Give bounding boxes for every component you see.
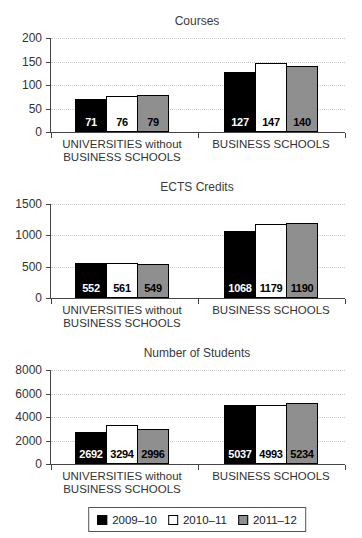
y-tick-label: 0 [4,291,42,305]
legend-item: 2010–11 [168,514,227,526]
y-tick-label: 0 [4,125,42,139]
legend-label: 2011–12 [253,514,297,526]
y-tick-mark [46,109,50,110]
y-tick-label: 2000 [4,434,42,448]
bar-value-label: 147 [255,116,287,128]
y-tick-label: 4000 [4,410,42,424]
chart-ects-credits: ECTS Credits 050010001500552106856111795… [0,174,362,340]
bar-value-label: 79 [137,116,169,128]
chart-number-of-students: Number of Students 020004000600080002692… [0,340,362,506]
y-tick-label: 200 [4,31,42,45]
category-label: UNIVERSITIES without BUSINESS SCHOOLS [37,138,207,164]
bar-value-label: 3294 [106,448,138,460]
bar-value-label: 5234 [286,448,318,460]
y-tick-mark [46,267,50,268]
gridline [51,394,345,395]
bar-value-label: 1190 [286,282,318,294]
bar-value-label: 2996 [137,448,169,460]
y-tick-mark [46,204,50,205]
bar-value-label: 1179 [255,282,287,294]
bar-value-label: 4993 [255,448,287,460]
gridline [51,38,345,39]
gridline [51,370,345,371]
category-label: BUSINESS SCHOOLS [186,138,356,151]
bar-value-label: 561 [106,282,138,294]
y-tick-mark [46,235,50,236]
category-label: UNIVERSITIES without BUSINESS SCHOOLS [37,470,207,496]
y-tick-mark [46,298,50,299]
bar-value-label: 140 [286,116,318,128]
legend-swatch [97,515,107,525]
chart-courses: Courses 050100150200711277614779140UNIVE… [0,8,362,174]
legend-label: 2009–10 [112,514,157,526]
y-tick-mark [46,370,50,371]
y-tick-mark [46,394,50,395]
plot-area: 0200040006000800026925037329449932996523… [50,370,345,465]
y-tick-label: 1000 [4,228,42,242]
legend-swatch [238,515,248,525]
legend-item: 2009–10 [97,514,157,526]
y-tick-label: 0 [4,457,42,471]
y-tick-label: 1500 [4,197,42,211]
y-tick-mark [46,441,50,442]
category-label: UNIVERSITIES without BUSINESS SCHOOLS [37,304,207,330]
bar-value-label: 552 [75,282,107,294]
plot-area: 050010001500552106856111795491190UNIVERS… [50,204,345,299]
y-tick-label: 500 [4,260,42,274]
bar-value-label: 549 [137,282,169,294]
bar-value-label: 2692 [75,448,107,460]
legend-swatch [168,515,178,525]
y-tick-label: 100 [4,78,42,92]
bar-value-label: 76 [106,116,138,128]
y-tick-mark [46,464,50,465]
y-tick-label: 50 [4,102,42,116]
legend-label: 2010–11 [183,514,227,526]
y-tick-mark [46,62,50,63]
y-tick-mark [46,85,50,86]
bar-value-label: 71 [75,116,107,128]
bar-value-label: 127 [224,116,256,128]
y-tick-label: 8000 [4,363,42,377]
legend-item: 2011–12 [238,514,297,526]
gridline [51,62,345,63]
category-label: BUSINESS SCHOOLS [186,304,356,317]
chart-title: Courses [50,14,344,28]
y-tick-mark [46,38,50,39]
bar-value-label: 1068 [224,282,256,294]
category-label: BUSINESS SCHOOLS [186,470,356,483]
y-tick-label: 150 [4,55,42,69]
chart-title: ECTS Credits [50,180,344,194]
legend: 2009–102010–112011–12 [88,507,306,532]
plot-area: 050100150200711277614779140UNIVERSITIES … [50,38,345,133]
y-tick-mark [46,132,50,133]
y-tick-mark [46,417,50,418]
y-tick-label: 6000 [4,387,42,401]
gridline [51,204,345,205]
bar-value-label: 5037 [224,448,256,460]
chart-title: Number of Students [50,346,344,360]
